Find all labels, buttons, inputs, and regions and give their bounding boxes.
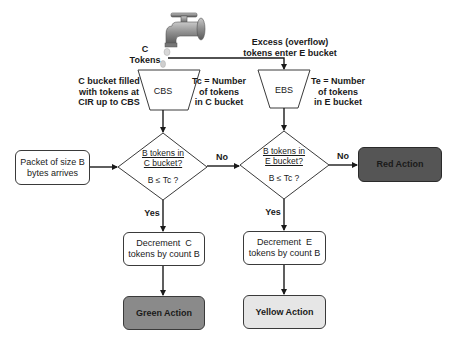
decision-e-no-label: No [333, 151, 353, 162]
decrement-c-box: Decrement C tokens by count B [123, 232, 205, 266]
c-tokens-line1: C [128, 44, 162, 55]
c-bucket-fill-note: C bucket filled with tokens at CIR up to… [78, 76, 140, 108]
faucet-icon [165, 13, 205, 47]
decision-e-question-line2: E bucket? [254, 156, 314, 166]
decision-e-yes-label: Yes [263, 207, 283, 218]
decrement-c-line1: Decrement C [128, 238, 200, 249]
decrement-e-line1: Decrement E [249, 237, 321, 248]
green-action-box: Green Action [123, 296, 205, 330]
te-note-line: Te = Number [310, 76, 366, 87]
overflow-arrow [168, 58, 284, 69]
c-bucket-fill-note-line: C bucket filled [78, 76, 140, 87]
decision-c-question-line2: C bucket? [133, 158, 193, 168]
overflow-line1: Excess (overflow) [230, 37, 350, 48]
c-tokens-label: C Tokens [128, 44, 162, 65]
c-tokens-line2: Tokens [128, 55, 162, 66]
packet-line1: Packet of size B [20, 157, 85, 168]
packet-arrives-box: Packet of size B bytes arrives [15, 150, 90, 185]
c-bucket-fill-note-line: with tokens at [78, 87, 140, 98]
te-note-line: of tokens [310, 87, 366, 98]
decision-c-yes-label: Yes [142, 208, 162, 219]
red-action-box: Red Action [358, 147, 442, 182]
tc-note: Tc = Number of tokens in C bucket [190, 76, 248, 108]
tc-note-line: Tc = Number [190, 76, 248, 87]
decision-c-question-line1: B tokens in [133, 148, 193, 158]
green-action-label: Green Action [136, 308, 192, 319]
decision-e-question-line1: B tokens in [254, 146, 314, 156]
yellow-action-box: Yellow Action [243, 295, 326, 329]
overflow-line2: tokens enter E bucket [230, 48, 350, 59]
decrement-c-line2: tokens by count B [128, 249, 200, 260]
decision-c-condition: B ≤ Tc ? [133, 175, 193, 185]
te-note-line: in E bucket [310, 97, 366, 108]
decision-e-condition: B ≤ Tc ? [254, 173, 314, 183]
decrement-e-box: Decrement E tokens by count B [243, 231, 326, 265]
decision-c-no-label: No [212, 152, 232, 163]
overflow-label: Excess (overflow) tokens enter E bucket [230, 37, 350, 58]
packet-line2: bytes arrives [20, 168, 85, 179]
te-note: Te = Number of tokens in E bucket [310, 76, 366, 108]
yellow-action-label: Yellow Action [255, 307, 313, 318]
c-bucket-name: CBS [146, 86, 180, 97]
e-bucket-name: EBS [267, 85, 301, 96]
red-action-label: Red Action [376, 159, 423, 170]
decision-c-text: B tokens in C bucket? B ≤ Tc ? [133, 148, 193, 185]
decrement-e-line2: tokens by count B [249, 248, 321, 259]
tc-note-line: in C bucket [190, 97, 248, 108]
tc-note-line: of tokens [190, 87, 248, 98]
c-bucket-fill-note-line: CIR up to CBS [78, 97, 140, 108]
decision-e-text: B tokens in E bucket? B ≤ Tc ? [254, 146, 314, 183]
